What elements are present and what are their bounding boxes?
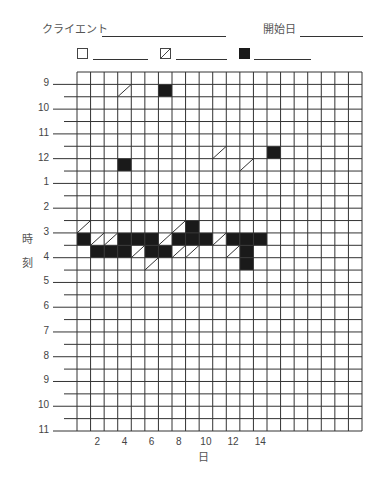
- diagonal-cell: [240, 159, 254, 171]
- x-tick-label: 2: [87, 437, 107, 447]
- filled-cell: [267, 146, 281, 158]
- diagonal-cell: [91, 233, 105, 245]
- filled-cell: [240, 258, 254, 270]
- x-tick-label: 4: [115, 437, 135, 447]
- filled-cell: [118, 159, 132, 171]
- x-tick-label: 10: [196, 437, 216, 447]
- diagonal-cell: [172, 245, 186, 257]
- filled-cell: [158, 84, 172, 96]
- diagonal-cell: [77, 221, 91, 233]
- x-tick-label: 14: [250, 437, 270, 447]
- filled-cell: [199, 233, 213, 245]
- filled-cell: [104, 245, 118, 257]
- filled-cell: [131, 233, 145, 245]
- filled-cell: [91, 245, 105, 257]
- diagonal-cell: [118, 84, 132, 96]
- diagonal-cell: [213, 233, 227, 245]
- x-tick-label: 8: [169, 437, 189, 447]
- filled-cell: [172, 233, 186, 245]
- schedule-grid: [0, 0, 383, 486]
- filled-cell: [145, 245, 159, 257]
- diagonal-cell: [145, 258, 159, 270]
- filled-cell: [240, 233, 254, 245]
- x-axis-title: 日: [198, 452, 209, 464]
- diagonal-cell: [158, 233, 172, 245]
- filled-cell: [253, 233, 267, 245]
- filled-cell: [118, 233, 132, 245]
- diagonal-cell: [104, 233, 118, 245]
- filled-cell: [77, 233, 91, 245]
- diagonal-cell: [172, 221, 186, 233]
- diagonal-cell: [213, 146, 227, 158]
- filled-cell: [158, 245, 172, 257]
- filled-cell: [118, 245, 132, 257]
- diagonal-cell: [186, 245, 200, 257]
- filled-cell: [240, 245, 254, 257]
- x-tick-label: 6: [142, 437, 162, 447]
- filled-cell: [186, 233, 200, 245]
- diagonal-cell: [226, 245, 240, 257]
- filled-cell: [145, 233, 159, 245]
- x-tick-label: 12: [223, 437, 243, 447]
- diagonal-cell: [131, 245, 145, 257]
- filled-cell: [226, 233, 240, 245]
- filled-cell: [186, 221, 200, 233]
